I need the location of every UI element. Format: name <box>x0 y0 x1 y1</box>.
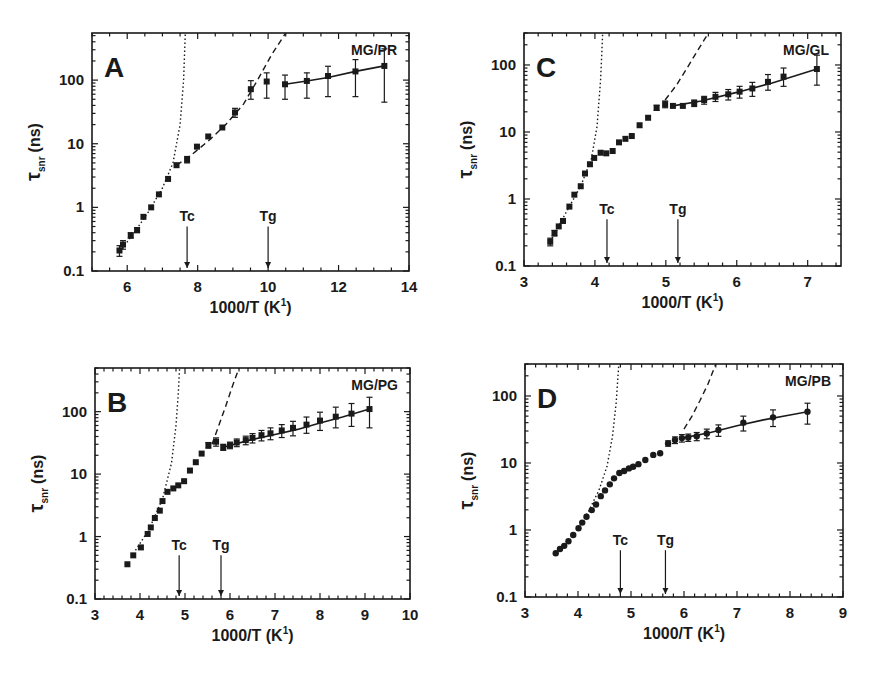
data-point <box>712 94 718 100</box>
data-point <box>560 218 566 224</box>
data-point <box>622 136 628 142</box>
chart-panel-a: 681012140.11101001000/T (K1)τsnr(ns)TcTg… <box>0 0 440 330</box>
y-tick-label: 100 <box>59 71 84 88</box>
data-point <box>205 133 211 139</box>
x-tick-label: 10 <box>260 278 277 295</box>
y-tick-label: 100 <box>62 403 87 420</box>
x-axis-title: 1000/T (K1) <box>643 623 725 642</box>
x-tick-label: 8 <box>193 278 201 295</box>
y-tick-label: 10 <box>70 465 87 482</box>
data-point <box>583 513 589 519</box>
svg-text:Tg: Tg <box>657 532 674 548</box>
data-point <box>268 430 274 436</box>
panel-b: 3456789100.11101001000/T (K1)τsnr(ns)TcT… <box>0 330 440 678</box>
y-axis-title: τsnr(ns) <box>454 121 479 179</box>
x-tick-label: 7 <box>803 273 811 290</box>
data-point <box>598 493 604 499</box>
data-point <box>749 85 755 91</box>
panel-d: 34567890.11101001000/T (K1)τsnr(ns)TcTgD… <box>440 330 872 678</box>
data-point <box>250 435 256 441</box>
data-point <box>565 538 571 544</box>
plot-frame <box>525 364 843 597</box>
marker-tg: Tg <box>260 208 277 268</box>
data-point <box>184 157 190 163</box>
y-tick-label: 0.1 <box>495 257 516 274</box>
data-point <box>130 552 136 558</box>
svg-text:Tc: Tc <box>599 201 615 217</box>
panel-a: 681012140.11101001000/T (K1)τsnr(ns)TcTg… <box>0 0 440 330</box>
arrow-down-icon <box>184 262 190 268</box>
data-point <box>234 440 240 446</box>
data-point <box>164 489 170 495</box>
x-tick-label: 4 <box>591 273 600 290</box>
data-point <box>156 191 162 197</box>
data-point <box>665 440 671 446</box>
fit-line-dashed <box>212 368 239 444</box>
data-point <box>593 501 599 507</box>
data-point <box>587 161 593 167</box>
y-tick-label: 1 <box>508 190 516 207</box>
plot-frame <box>95 368 410 599</box>
y-tick-label: 0.1 <box>496 588 517 605</box>
fit-line-dashed <box>177 33 286 165</box>
chart-panel-d: 34567890.11101001000/T (K1)τsnr(ns)TcTgD… <box>440 330 872 678</box>
system-label: MG/PG <box>351 377 398 393</box>
panel-letter: C <box>536 52 556 83</box>
system-label: MG/PB <box>785 373 831 389</box>
data-point <box>737 89 743 95</box>
data-point <box>602 487 608 493</box>
data-point <box>264 79 270 85</box>
x-tick-label: 3 <box>91 606 99 623</box>
data-point <box>304 422 310 428</box>
x-tick-label: 5 <box>662 273 670 290</box>
data-point <box>349 411 355 417</box>
data-point <box>715 427 721 433</box>
y-tick-label: 10 <box>500 454 517 471</box>
chart-panel-c: 345670.11101001000/T (K1)τsnr(ns)TcTgCMG… <box>440 0 872 330</box>
data-point <box>566 204 572 210</box>
data-point <box>662 101 668 107</box>
data-points <box>547 55 820 246</box>
x-tick-label: 9 <box>839 604 847 621</box>
data-point <box>352 68 358 74</box>
x-axis: 68101214 <box>92 33 418 295</box>
data-point <box>116 247 122 253</box>
data-point <box>591 155 597 161</box>
system-label: MG/PR <box>351 42 397 58</box>
data-point <box>704 430 710 436</box>
data-point <box>616 139 622 145</box>
x-tick-label: 9 <box>361 606 369 623</box>
svg-text:Tg: Tg <box>260 208 277 224</box>
x-tick-label: 5 <box>627 604 635 621</box>
panel-letter: B <box>107 387 127 418</box>
data-point <box>701 97 707 103</box>
data-point <box>611 475 617 481</box>
y-tick-label: 100 <box>491 56 516 73</box>
data-point <box>781 74 787 80</box>
x-tick-label: 3 <box>520 273 528 290</box>
data-point <box>213 439 219 445</box>
fit-line-dotted <box>550 33 603 242</box>
x-tick-label: 6 <box>680 604 688 621</box>
data-point <box>140 214 146 220</box>
data-points <box>116 49 387 256</box>
data-point <box>570 532 576 538</box>
chart-panel-b: 3456789100.11101001000/T (K1)τsnr(ns)TcT… <box>0 330 440 678</box>
data-point <box>232 109 238 115</box>
data-point <box>160 498 166 504</box>
data-point <box>607 481 613 487</box>
fit-line-dotted <box>136 368 180 550</box>
data-point <box>578 183 584 189</box>
data-point <box>128 233 134 239</box>
data-point <box>547 239 553 245</box>
x-tick-label: 12 <box>330 278 347 295</box>
fit-line-dashed <box>665 33 708 100</box>
data-point <box>610 148 616 154</box>
plot-frame <box>92 33 409 271</box>
arrow-down-icon <box>617 588 623 594</box>
arrow-down-icon <box>265 262 271 268</box>
data-point <box>381 63 387 69</box>
data-point <box>243 437 249 443</box>
x-tick-label: 4 <box>136 606 145 623</box>
y-tick-label: 1 <box>79 528 87 545</box>
